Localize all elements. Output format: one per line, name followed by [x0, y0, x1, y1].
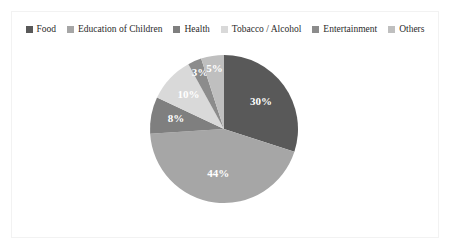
legend-item-education-of-children[interactable]: Education of Children	[67, 25, 162, 35]
pie-chart: 30%44%8%10%3%5%	[147, 52, 301, 206]
pie-slice-label: 5%	[206, 62, 223, 74]
legend-swatch-icon	[173, 26, 180, 33]
pie-slice-label: 30%	[250, 95, 272, 107]
legend-item-label: Others	[399, 25, 424, 35]
legend-item-label: Education of Children	[78, 25, 162, 35]
legend-item-food[interactable]: Food	[26, 25, 57, 35]
legend-swatch-icon	[221, 26, 228, 33]
legend-swatch-icon	[388, 26, 395, 33]
legend-item-label: Tobacco / Alcohol	[232, 25, 302, 35]
pie-slice-label: 10%	[177, 88, 199, 100]
pie-slice-label: 8%	[168, 112, 185, 124]
legend-swatch-icon	[67, 26, 74, 33]
legend-item-label: Entertainment	[323, 25, 377, 35]
legend-swatch-icon	[312, 26, 319, 33]
legend-item-label: Health	[184, 25, 209, 35]
chart-legend: FoodEducation of ChildrenHealthTobacco /…	[12, 25, 438, 35]
pie-chart-svg: 30%44%8%10%3%5%	[147, 52, 301, 206]
legend-item-label: Food	[37, 25, 57, 35]
legend-item-entertainment[interactable]: Entertainment	[312, 25, 377, 35]
legend-item-tobacco-alcohol[interactable]: Tobacco / Alcohol	[221, 25, 302, 35]
chart-frame: FoodEducation of ChildrenHealthTobacco /…	[11, 11, 439, 238]
pie-slice-label: 44%	[207, 167, 229, 179]
legend-item-others[interactable]: Others	[388, 25, 424, 35]
legend-swatch-icon	[26, 26, 33, 33]
legend-item-health[interactable]: Health	[173, 25, 209, 35]
